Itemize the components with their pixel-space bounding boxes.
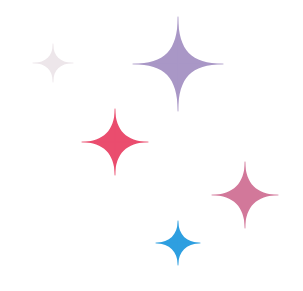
sparkle-red-icon [82, 109, 148, 175]
sparkle-blue-icon [156, 221, 200, 265]
sparkles-canvas [0, 0, 303, 291]
sparkle-grey-icon [33, 44, 73, 82]
sparkle-pink-icon [212, 162, 278, 228]
sparkle-purple-icon [133, 17, 223, 111]
sparkle-layer [33, 17, 278, 265]
